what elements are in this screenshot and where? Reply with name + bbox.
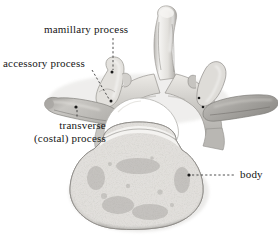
- label-accessory-process: accessory process: [3, 57, 85, 70]
- dot-body: [187, 173, 190, 176]
- label-mamillary-line-1: mamillary process: [44, 23, 128, 36]
- dot-transverse: [74, 105, 77, 108]
- label-transverse-line-2: (costal) process: [34, 132, 106, 145]
- dot-mamillary: [111, 71, 114, 74]
- label-accessory-line-1: accessory process: [3, 57, 85, 70]
- dot-accessory: [110, 100, 113, 103]
- dot-accessory-right: [198, 97, 201, 100]
- dot-mamillary-right: [202, 106, 205, 109]
- label-mamillary-process: mamillary process: [44, 23, 128, 36]
- label-body: body: [240, 168, 263, 181]
- label-transverse-line-1: transverse: [34, 119, 106, 132]
- spinous-process: [154, 6, 177, 80]
- label-body-line-1: body: [240, 168, 263, 181]
- anatomy-figure: mamillary process accessory process tran…: [0, 0, 278, 238]
- label-transverse-costal-process: transverse (costal) process: [34, 119, 106, 145]
